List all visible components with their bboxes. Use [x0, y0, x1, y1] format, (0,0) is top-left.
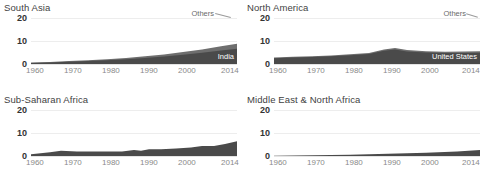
x-tick-1990: 1990: [383, 159, 401, 167]
panel-title: South Asia: [4, 2, 50, 13]
x-tick-1970: 1970: [64, 159, 82, 167]
x-tick-2000: 2000: [178, 67, 196, 75]
plot-area: Others United States: [274, 18, 480, 64]
x-tick-1960: 1960: [26, 159, 44, 167]
gridline-0: [274, 64, 480, 65]
series-sub-saharan-africa-path: [31, 141, 237, 156]
gridline-0: [31, 64, 237, 65]
x-tick-1980: 1980: [345, 67, 363, 75]
x-tick-2014: 2014: [221, 159, 239, 167]
area-series-svg: [31, 18, 237, 64]
x-tick-2000: 2000: [421, 159, 439, 167]
y-tick-20: 20: [3, 14, 27, 23]
others-leader-line: [466, 13, 478, 17]
panel-title: Sub-Saharan Africa: [4, 94, 88, 105]
series-label-others: Others: [191, 9, 214, 18]
y-tick-20: 20: [246, 106, 270, 115]
plot-area: [31, 110, 237, 156]
x-tick-1970: 1970: [64, 67, 82, 75]
x-tick-1980: 1980: [345, 159, 363, 167]
x-tick-2014: 2014: [221, 67, 239, 75]
x-tick-1990: 1990: [140, 67, 158, 75]
x-tick-1990: 1990: [383, 67, 401, 75]
gridline-0: [274, 156, 480, 157]
y-tick-10: 10: [246, 129, 270, 138]
y-tick-0: 0: [246, 60, 270, 69]
x-tick-2000: 2000: [421, 67, 439, 75]
y-tick-0: 0: [3, 60, 27, 69]
x-tick-1960: 1960: [269, 67, 287, 75]
y-tick-0: 0: [246, 152, 270, 161]
y-tick-0: 0: [3, 152, 27, 161]
small-multiples-grid: South Asia 20 10 0 Others India 1960 197…: [0, 0, 485, 183]
panel-north-america: North America 20 10 0 Others United Stat…: [243, 0, 485, 92]
x-tick-1980: 1980: [102, 67, 120, 75]
y-tick-20: 20: [246, 14, 270, 23]
plot-area: [274, 110, 480, 156]
x-tick-2014: 2014: [462, 67, 480, 75]
y-tick-10: 10: [246, 37, 270, 46]
series-label-india: India: [218, 52, 234, 61]
y-tick-10: 10: [3, 129, 27, 138]
x-tick-1960: 1960: [269, 159, 287, 167]
plot-area: Others India: [31, 18, 237, 64]
area-series-svg: [31, 110, 237, 156]
series-label-others: Others: [443, 9, 466, 18]
x-tick-1970: 1970: [307, 67, 325, 75]
panel-title: Middle East & North Africa: [247, 94, 360, 105]
x-tick-1970: 1970: [307, 159, 325, 167]
series-label-united-states: United States: [432, 52, 477, 61]
panel-sub-saharan-africa: Sub-Saharan Africa 20 10 0 1960 1970 198…: [0, 92, 243, 183]
y-tick-20: 20: [3, 106, 27, 115]
panel-south-asia: South Asia 20 10 0 Others India 1960 197…: [0, 0, 243, 92]
series-middle-east-path: [274, 150, 480, 156]
x-tick-1960: 1960: [26, 67, 44, 75]
x-tick-2014: 2014: [462, 159, 480, 167]
y-tick-10: 10: [3, 37, 27, 46]
panel-middle-east-north-africa: Middle East & North Africa 20 10 0 1960 …: [243, 92, 485, 183]
x-tick-1990: 1990: [140, 159, 158, 167]
x-tick-1980: 1980: [102, 159, 120, 167]
gridline-0: [31, 156, 237, 157]
panel-title: North America: [247, 2, 309, 13]
area-series-svg: [274, 110, 480, 156]
x-tick-2000: 2000: [178, 159, 196, 167]
